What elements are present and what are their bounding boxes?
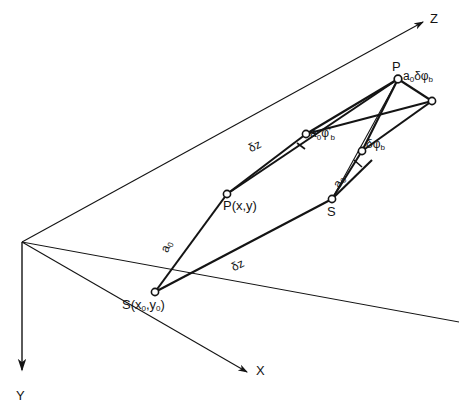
- point-label-S0: S(x0,y0): [122, 298, 165, 313]
- measure-label-delta-phi-b: δφb: [366, 138, 385, 152]
- measure-label-a0-delta-phi-b: a0δφb: [403, 70, 433, 84]
- node-midpoint-upper: [302, 130, 309, 137]
- arc-top-phi: φ: [421, 69, 429, 83]
- node-S0: [151, 288, 158, 295]
- measure-label-a0-phi-prime-b: a0φ′b: [310, 127, 335, 142]
- axis-x-label: X: [256, 364, 265, 377]
- point-label-P1: P: [392, 60, 401, 73]
- point-label-S0-mid: ,y: [146, 297, 156, 312]
- node-S1-prime: [358, 147, 365, 154]
- node-P1: [394, 75, 402, 83]
- point-label-P0: P(x,y): [223, 199, 257, 212]
- arc-mid-phi: φ: [321, 126, 329, 140]
- angle-tick-group: [297, 143, 362, 167]
- point-label-S1: S: [327, 205, 336, 218]
- figure-canvas: · · ·: [0, 0, 459, 413]
- axis-group: [22, 22, 423, 372]
- arc-right-delta: δ: [366, 137, 373, 151]
- axis-z-label: Z: [430, 12, 438, 25]
- node-markers-group: [151, 75, 435, 295]
- plane-edge-front: [22, 242, 459, 322]
- node-P0: [223, 190, 230, 197]
- node-S1: [328, 195, 335, 202]
- point-label-S0-end: ): [161, 297, 165, 312]
- arc-mid-a: a: [310, 126, 317, 140]
- segment-P0-to-midnode-dz: [227, 134, 306, 194]
- arc-top-a: a: [403, 69, 410, 83]
- reference-plane-edges: [22, 242, 459, 322]
- arc-mid-phi-sub: b: [331, 133, 335, 142]
- node-P1-prime: [428, 97, 435, 104]
- arc-right-phi-sub: b: [380, 143, 384, 152]
- axis-y-label: Y: [16, 389, 25, 402]
- arc-top-phi-sub: b: [429, 75, 433, 84]
- point-label-S0-main: S(x: [122, 297, 142, 312]
- arc-top-delta: δ: [414, 69, 421, 83]
